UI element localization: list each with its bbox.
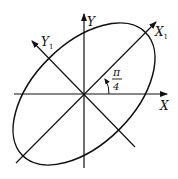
y-axis-label: Y — [87, 15, 96, 29]
x1-axis — [16, 22, 156, 163]
x-axis-label: X — [159, 99, 169, 113]
angle-denominator: 4 — [112, 81, 119, 92]
angle-arc-icon — [105, 79, 109, 94]
x1-axis-label: X1 — [154, 25, 168, 41]
rotated-ellipse-diagram: Y X X1 Y1 π 4 — [0, 0, 178, 179]
angle-numerator: π — [112, 66, 121, 79]
y1-axis-label: Y1 — [41, 35, 53, 51]
